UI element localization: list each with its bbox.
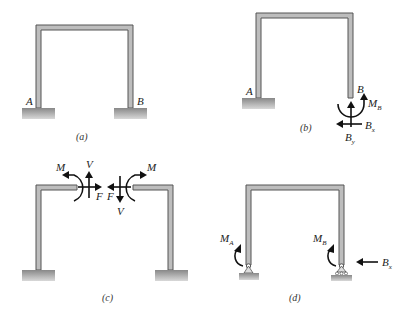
label-b: B [137,95,144,107]
pin-support-a [244,266,253,273]
ground-b [331,275,352,281]
panel-d: MA MB Bx (d) [219,185,393,304]
ground-a [239,273,259,280]
panel-b: A B MB Bx By (b) [242,13,382,146]
frame-d [246,185,344,265]
frame-c-left [36,185,77,270]
caption-a: (a) [76,131,88,143]
label-m-left: M [55,161,66,173]
fixed-support-a [22,108,55,119]
label-mb: MB [312,232,327,247]
label-f-left: F [95,190,103,202]
roller-wheel-1 [336,272,339,275]
force-bx-arrowhead [356,258,363,266]
label-m-right: M [146,161,157,173]
panel-c: M V F F V M (c) [22,158,188,304]
shear-v-right-arrowhead [116,196,124,203]
roller-wheel-2 [340,272,343,275]
fixed-support-b [114,108,147,119]
moment-m-right-arrowhead [140,171,147,179]
shear-v-left-arrowhead [85,171,93,178]
label-a: A [245,85,253,97]
frame-a [36,25,133,108]
structural-frames-diagram: A B (a) A B MB Bx By (b) [0,0,407,315]
frame-c-right [133,185,173,270]
label-by: By [345,131,356,146]
label-b: B [357,83,364,95]
caption-c: (c) [102,292,114,304]
label-bx: Bx [365,119,376,134]
roller-wheel-3 [345,272,348,275]
fixed-support-left [22,270,55,281]
roller-support-b [337,266,346,272]
label-a: A [25,95,33,107]
label-mb: MB [367,97,382,112]
force-bx-arrowhead [336,120,343,128]
fixed-support-a [242,98,275,109]
label-ma: MA [219,232,234,247]
panel-a: A B (a) [22,25,147,143]
label-v-right: V [117,205,125,217]
fixed-support-right [155,270,188,281]
caption-b: (b) [300,122,312,134]
frame-b [256,13,353,98]
label-f-right: F [106,190,114,202]
force-by-arrowhead [347,101,355,108]
caption-d: (d) [289,292,301,304]
label-bx: Bx [382,256,393,271]
label-v-left: V [86,158,94,170]
